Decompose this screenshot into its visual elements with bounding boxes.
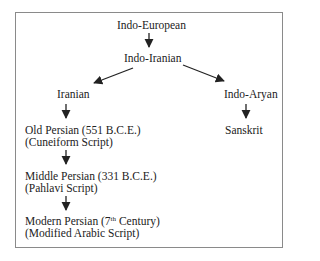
node-indo-aryan: Indo-Aryan xyxy=(224,88,278,100)
node-sanskrit: Sanskrit xyxy=(225,124,263,136)
node-label: Indo-European xyxy=(117,19,186,31)
arrow-diagonal-left-icon xyxy=(94,68,133,83)
node-label: Sanskrit xyxy=(225,124,263,136)
node-label: Indo-Aryan xyxy=(224,88,278,100)
node-indo-iranian: Indo-Iranian xyxy=(124,52,181,64)
node-iranian: Iranian xyxy=(57,88,90,100)
node-label: Indo-Iranian xyxy=(124,52,181,64)
node-label-suffix: Century) xyxy=(116,215,160,227)
node-old-persian: Old Persian (551 B.C.E.) (Cuneiform Scri… xyxy=(25,124,141,148)
node-indo-european: Indo-European xyxy=(117,19,186,31)
node-modern-persian: Modern Persian (7th Century) (Modified A… xyxy=(25,215,160,239)
node-middle-persian: Middle Persian (331 B.C.E.) (Pahlavi Scr… xyxy=(25,170,157,194)
node-sublabel: (Cuneiform Script) xyxy=(25,136,141,148)
node-sublabel: (Modified Arabic Script) xyxy=(25,227,160,239)
node-label: Modern Persian (7th Century) xyxy=(25,215,160,227)
node-sublabel: (Pahlavi Script) xyxy=(25,182,157,194)
node-label: Iranian xyxy=(57,88,90,100)
node-label: Middle Persian (331 B.C.E.) xyxy=(25,170,157,182)
arrow-diagonal-right-icon xyxy=(183,65,224,81)
node-label: Old Persian (551 B.C.E.) xyxy=(25,124,141,136)
node-label-prefix: Modern Persian (7 xyxy=(25,215,111,227)
